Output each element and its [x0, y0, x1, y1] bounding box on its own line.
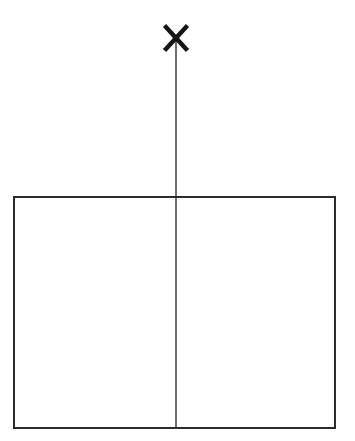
canvas-background — [0, 0, 355, 441]
figure-canvas — [0, 0, 355, 441]
figure-drawing — [0, 0, 355, 441]
